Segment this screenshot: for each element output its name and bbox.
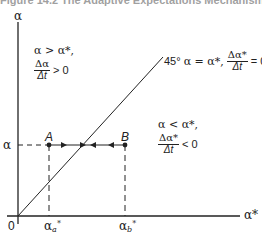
arrow-left-icon	[108, 142, 114, 148]
origin-label: 0	[8, 220, 15, 232]
condition-text: α > α*,	[34, 45, 74, 56]
point-a-label: A	[45, 131, 53, 143]
y-axis-label: α	[14, 10, 22, 22]
equality-text: α = α*,	[184, 56, 224, 67]
x-axis-label: α*	[244, 209, 258, 221]
equilibrium-line-label: 45° α = α*, Δα* Δt = 0	[164, 50, 262, 72]
rhs-text: = 0	[251, 56, 262, 67]
fraction: Δα* Δt	[227, 50, 248, 72]
fraction: Δα Δt	[34, 59, 50, 81]
condition-text: α < α*,	[158, 119, 198, 130]
rhs-text: < 0	[182, 139, 198, 150]
diagram-canvas	[0, 0, 262, 238]
x-tick-alpha-b: αb*	[119, 220, 136, 234]
point-b-label: B	[121, 131, 129, 143]
rhs-text: > 0	[53, 65, 69, 76]
arrow-right-icon	[61, 142, 67, 148]
y-tick-alpha: α	[3, 139, 11, 151]
arrow-left-icon	[90, 142, 96, 148]
angle-text: 45°	[164, 56, 181, 67]
x-tick-alpha-a: αa*	[44, 220, 61, 234]
fraction: Δα* Δt	[158, 133, 179, 155]
lower-region-label: α < α*, Δα* Δt < 0	[158, 119, 198, 155]
upper-region-label: α > α*, Δα Δt > 0	[34, 45, 74, 81]
